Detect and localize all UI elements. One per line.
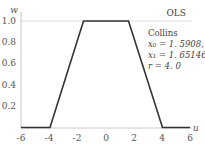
annotation-line: Collins <box>148 28 178 38</box>
x-tick: -6 <box>17 133 26 143</box>
parameter-annotation: Collins x₀ = 1. 5908, x₁ = 1. 651462, r … <box>148 28 205 71</box>
y-tick: 0.8 <box>2 37 17 47</box>
annotation-line: r = 4. 0 <box>148 61 181 71</box>
y-tick: 0.6 <box>2 58 17 68</box>
y-tick: 0.4 <box>2 80 17 90</box>
y-tick-labels: 1.0 0.8 0.6 0.4 0.2 <box>2 16 17 111</box>
x-tick: -4 <box>45 133 54 143</box>
x-tick: 2 <box>131 133 137 143</box>
x-tick: 0 <box>103 133 109 143</box>
chart-title: OLS <box>166 8 186 18</box>
x-tick-labels: -6 -4 -2 0 2 4 6 <box>17 133 194 143</box>
y-tick: 0.2 <box>2 101 16 111</box>
chart: 1.0 0.8 0.6 0.4 0.2 w -6 -4 -2 0 2 4 6 u… <box>0 0 205 153</box>
y-axis-label: w <box>10 5 18 15</box>
x-axis-label: u <box>193 123 199 133</box>
x-tick: -2 <box>73 133 82 143</box>
x-tick: 4 <box>159 133 165 143</box>
annotation-line: x₀ = 1. 5908, <box>148 39 204 49</box>
y-tick: 1.0 <box>2 16 17 26</box>
annotation-line: x₁ = 1. 651462, <box>148 50 205 60</box>
x-tick: 6 <box>187 133 193 143</box>
